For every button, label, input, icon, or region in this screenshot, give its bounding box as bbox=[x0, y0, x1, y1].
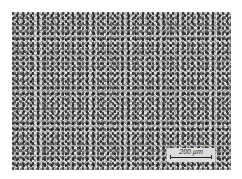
scale-bar-box: 200 µm bbox=[167, 148, 215, 162]
scale-bar-label: 200 µm bbox=[167, 148, 215, 156]
micrograph-image: 200 µm bbox=[12, 12, 231, 170]
scale-bar-line bbox=[170, 157, 212, 158]
